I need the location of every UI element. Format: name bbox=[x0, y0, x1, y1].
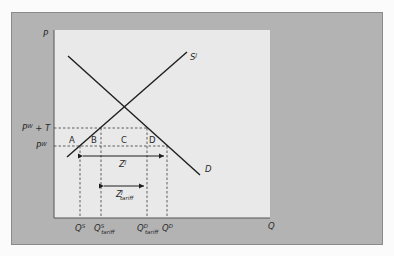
area-b-label: B bbox=[91, 135, 97, 145]
world-price-label: PW bbox=[36, 141, 47, 151]
qd-label: QD bbox=[162, 223, 173, 233]
world-plus-tariff-price-label: PW + T bbox=[22, 123, 51, 133]
y-axis-label: P bbox=[43, 29, 49, 39]
demand-label: D bbox=[205, 164, 212, 174]
area-a-label: A bbox=[69, 135, 75, 145]
x-axis-label: Q bbox=[268, 221, 275, 231]
tariff-diagram: P Q SJ D PW + T PW A B C D ZJ ZJtariff Q… bbox=[0, 0, 394, 256]
plot-area bbox=[54, 30, 270, 218]
qs-tariff-label: QStariff bbox=[94, 223, 116, 235]
qs-label: QS bbox=[75, 223, 86, 233]
area-d-label: D bbox=[149, 135, 156, 145]
area-c-label: C bbox=[121, 135, 127, 145]
qd-tariff-label: QDtariff bbox=[137, 223, 159, 235]
